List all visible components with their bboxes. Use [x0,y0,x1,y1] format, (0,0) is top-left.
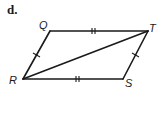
vertex-label-r: R [9,74,17,86]
vertex-label-t: T [149,22,156,34]
vertex-label-s: S [125,77,132,89]
parallelogram-diagram [0,0,157,127]
diagonal-RT [23,31,148,79]
vertex-label-q: Q [39,19,48,31]
